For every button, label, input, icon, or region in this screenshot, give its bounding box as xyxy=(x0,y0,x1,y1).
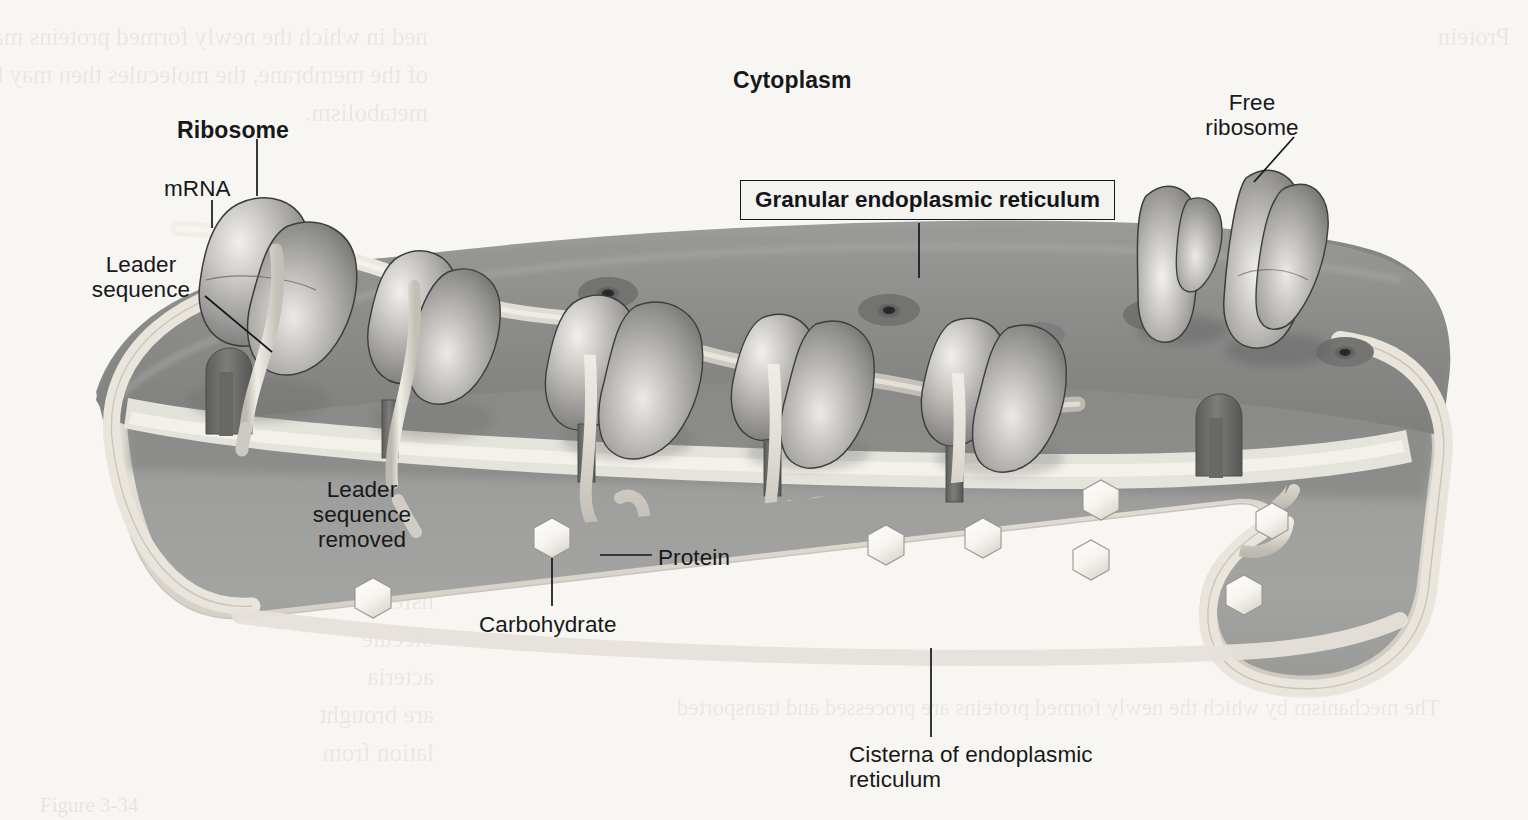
label-free-ribosome: Free ribosome xyxy=(1192,90,1312,140)
translocon-6 xyxy=(1196,394,1242,478)
label-cytoplasm: Cytoplasm xyxy=(733,68,851,93)
ribosome-bound-3 xyxy=(545,295,702,460)
label-leader-sequence: Leader sequence xyxy=(83,252,199,302)
ribosome-bound-4 xyxy=(731,314,874,471)
label-leader-sequence-removed: Leader sequence removed xyxy=(295,477,429,552)
leader-sequence-tip xyxy=(242,428,246,450)
label-cisterna-of-endoplasmic-reticulum: Cisterna of endoplasmic reticulum xyxy=(849,742,1089,792)
label-ribosome: Ribosome xyxy=(177,118,289,143)
free-ribosome-1 xyxy=(1137,186,1229,345)
ribosome-bound-5 xyxy=(921,318,1066,477)
label-box-granular-endoplasmic-reticulum: Granular endoplasmic reticulum xyxy=(740,180,1115,220)
figure-canvas: ned in which the newly formed proteins m… xyxy=(0,0,1528,820)
pore-2 xyxy=(858,294,920,326)
label-mrna: mRNA xyxy=(164,176,231,201)
label-protein: Protein xyxy=(658,545,730,570)
label-carbohydrate: Carbohydrate xyxy=(479,612,617,637)
carbohydrate-4 xyxy=(1073,540,1109,580)
